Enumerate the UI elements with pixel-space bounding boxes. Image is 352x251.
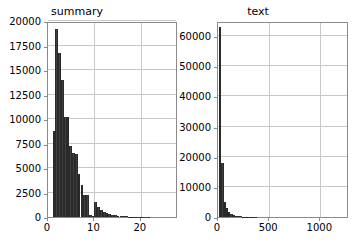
y-tick-label: 0 <box>0 213 41 223</box>
y-tick-label: 50000 <box>176 62 211 72</box>
plot-area-summary <box>47 22 177 218</box>
y-tick-label: 12500 <box>0 91 41 101</box>
subplot-title-text: text <box>170 5 346 18</box>
x-tick-label: 0 <box>44 223 50 233</box>
y-tick-mark <box>214 97 217 98</box>
y-tick-mark <box>214 188 217 189</box>
y-tick-mark <box>44 22 47 23</box>
histogram-bars-text <box>218 23 347 217</box>
y-tick-label: 20000 <box>176 153 211 163</box>
x-tick-mark <box>319 218 320 221</box>
figure-canvas: summary 02500500075001000012500150001750… <box>0 0 352 251</box>
y-tick-label: 15000 <box>0 66 41 76</box>
y-tick-mark <box>44 47 47 48</box>
y-tick-label: 17500 <box>0 42 41 52</box>
gridline-horizontal <box>48 20 176 21</box>
y-tick-mark <box>214 158 217 159</box>
y-tick-label: 20000 <box>0 17 41 27</box>
y-tick-label: 7500 <box>0 140 41 150</box>
x-tick-label: 10 <box>87 223 100 233</box>
y-tick-mark <box>214 67 217 68</box>
x-tick-label: 500 <box>259 223 278 233</box>
plot-area-text <box>217 22 348 218</box>
y-tick-label: 0 <box>176 213 211 223</box>
y-tick-mark <box>44 169 47 170</box>
x-tick-mark <box>268 218 269 221</box>
y-tick-mark <box>214 128 217 129</box>
histogram-bars-summary <box>48 23 176 217</box>
y-tick-label: 40000 <box>176 92 211 102</box>
x-tick-mark <box>140 218 141 221</box>
y-tick-mark <box>214 37 217 38</box>
y-tick-label: 10000 <box>0 115 41 125</box>
y-tick-mark <box>44 120 47 121</box>
y-tick-label: 10000 <box>176 183 211 193</box>
y-tick-mark <box>44 194 47 195</box>
y-tick-mark <box>44 71 47 72</box>
x-tick-label: 0 <box>214 223 220 233</box>
y-tick-label: 60000 <box>176 32 211 42</box>
y-tick-mark <box>44 145 47 146</box>
y-tick-mark <box>44 96 47 97</box>
x-tick-label: 20 <box>133 223 146 233</box>
x-tick-mark <box>47 218 48 221</box>
x-tick-mark <box>217 218 218 221</box>
subplot-summary: summary 02500500075001000012500150001750… <box>0 0 176 251</box>
subplot-text: text 0100002000030000400005000060000 050… <box>176 0 352 251</box>
y-tick-label: 5000 <box>0 164 41 174</box>
x-tick-label: 1000 <box>307 223 332 233</box>
y-tick-label: 2500 <box>0 189 41 199</box>
y-tick-label: 30000 <box>176 123 211 133</box>
x-tick-mark <box>93 218 94 221</box>
